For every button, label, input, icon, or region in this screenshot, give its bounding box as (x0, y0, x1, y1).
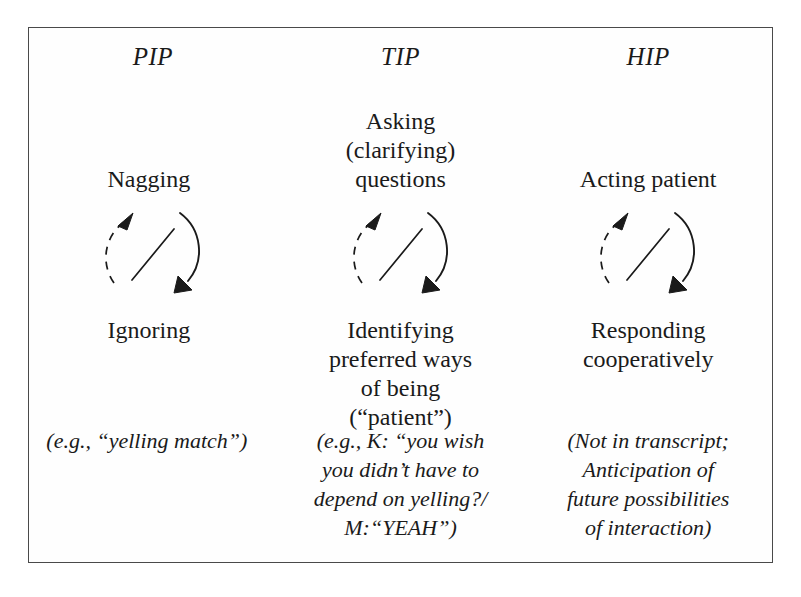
figure-columns: PIP Nagging Ignoring (e.g., “yelling mat… (29, 28, 772, 562)
up-arrowhead-icon (118, 213, 133, 230)
column-header-pip: PIP (133, 40, 173, 74)
diagonal-slash-icon (132, 229, 174, 280)
example-zone-hip: (Not in transcript; Anticipation of futu… (524, 426, 772, 542)
top-label-hip: Acting patient (580, 165, 717, 194)
column-header-hip: HIP (627, 40, 670, 74)
cycle-diagram-hip (583, 197, 713, 309)
solid-downward-arc-icon (675, 213, 694, 281)
example-zone-tip: (e.g., K: “you wish you didn’t have to d… (277, 426, 525, 542)
dashed-upward-arc-icon (106, 222, 124, 283)
example-text-pip: (e.g., “yelling match”) (46, 426, 247, 455)
example-text-tip: (e.g., K: “you wish you didn’t have to d… (314, 426, 488, 542)
solid-downward-arc-icon (428, 213, 447, 281)
figure-frame: PIP Nagging Ignoring (e.g., “yelling mat… (28, 27, 773, 563)
cycle-zone-hip (583, 194, 713, 312)
top-label-zone-pip: Nagging (29, 76, 277, 194)
top-label-zone-hip: Acting patient (524, 76, 772, 194)
up-arrowhead-icon (366, 213, 381, 230)
cycle-diagram-tip (336, 197, 466, 309)
column-header-tip: TIP (381, 40, 420, 74)
solid-downward-arc-icon (180, 213, 199, 281)
bottom-label-zone-tip: Identifying preferred ways of being (“pa… (277, 312, 525, 440)
bottom-label-tip: Identifying preferred ways of being (“pa… (329, 312, 472, 432)
bottom-label-zone-pip: Ignoring (29, 312, 277, 440)
dashed-upward-arc-icon (353, 222, 371, 283)
bottom-label-pip: Ignoring (108, 312, 191, 345)
diagonal-slash-icon (627, 229, 669, 280)
cycle-zone-pip (88, 194, 218, 312)
up-arrowhead-icon (613, 213, 628, 230)
cycle-diagram-pip (88, 197, 218, 309)
dashed-upward-arc-icon (601, 222, 619, 283)
cycle-zone-tip (336, 194, 466, 312)
example-text-hip: (Not in transcript; Anticipation of futu… (567, 426, 729, 542)
top-label-pip: Nagging (108, 165, 191, 194)
top-label-tip: Asking (clarifying) questions (346, 107, 455, 194)
top-label-zone-tip: Asking (clarifying) questions (277, 76, 525, 194)
column-tip: TIP Asking (clarifying) questions Identi… (277, 28, 525, 562)
bottom-label-zone-hip: Responding cooperatively (524, 312, 772, 440)
column-hip: HIP Acting patient Responding cooperativ… (524, 28, 772, 562)
example-zone-pip: (e.g., “yelling match”) (29, 426, 277, 455)
bottom-label-hip: Responding cooperatively (583, 312, 714, 374)
column-pip: PIP Nagging Ignoring (e.g., “yelling mat… (29, 28, 277, 562)
diagonal-slash-icon (380, 229, 422, 280)
